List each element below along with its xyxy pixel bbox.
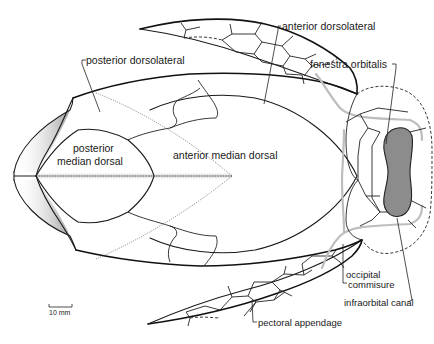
- label-anterior-median-dorsal: anterior median dorsal: [173, 149, 277, 161]
- main-lateral-canal-lower: [322, 206, 422, 268]
- lower-appendage-suture-dashed: [190, 317, 220, 318]
- label-posterior-dorsolateral: posterior dorsolateral: [86, 54, 185, 66]
- infraorbital-canal-inner: [342, 130, 344, 232]
- upper-appendage-suture-1: [181, 23, 186, 38]
- fenestra-orbitalis-shape: [384, 128, 413, 217]
- lobe-junction: [14, 172, 36, 180]
- scale-bar-label: 10 mm: [49, 309, 71, 316]
- label-fenestra-orbitalis: fenestra orbitalis: [310, 58, 387, 70]
- lower-pectoral-appendage: [148, 240, 362, 326]
- diagram-canvas: posterior dorsolateral anterior dorsolat…: [0, 0, 434, 344]
- upper-appendage-suture-2: [186, 27, 290, 66]
- lower-pdl-adl-suture: [128, 212, 177, 262]
- leader-posterior-dorsolateral: [82, 60, 100, 112]
- label-pectoral-appendage: pectoral appendage: [258, 317, 342, 328]
- lower-lobe-stipple: [14, 180, 70, 236]
- anatomical-diagram: posterior dorsolateral anterior dorsolat…: [0, 0, 434, 344]
- label-occipital-commisure-line2: commisure: [348, 279, 394, 290]
- scale-bar: 10 mm: [49, 304, 72, 316]
- label-posterior-median-dorsal-line1: posterior: [73, 142, 114, 154]
- label-infraorbital-canal: infraorbital canal: [344, 297, 414, 308]
- upper-pdl-adl-suture: [128, 88, 200, 140]
- head-shield: [316, 74, 432, 268]
- label-anterior-dorsolateral: anterior dorsolateral: [282, 20, 375, 32]
- scale-bar-line: [49, 304, 72, 307]
- shield-upper-margin: [73, 73, 357, 98]
- trunk-shield: [36, 73, 362, 266]
- leader-infraorbital-canal: [397, 218, 412, 302]
- orbit-inner-ridge: [372, 132, 380, 212]
- label-posterior-median-dorsal-line2: median dorsal: [57, 155, 123, 167]
